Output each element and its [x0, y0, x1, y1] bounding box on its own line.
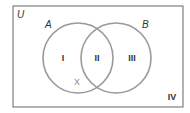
universe-label: U [17, 9, 25, 20]
region-iii-label: III [128, 53, 136, 63]
venn-diagram: U A B I II III IV X [0, 0, 190, 113]
set-a-label: A [44, 19, 52, 30]
set-b-label: B [142, 19, 149, 30]
region-i-label: I [62, 53, 65, 63]
set-b-circle [81, 23, 151, 93]
marker-x-label: X [74, 77, 80, 87]
region-iv-label: IV [168, 92, 177, 102]
region-ii-label: II [94, 53, 99, 63]
